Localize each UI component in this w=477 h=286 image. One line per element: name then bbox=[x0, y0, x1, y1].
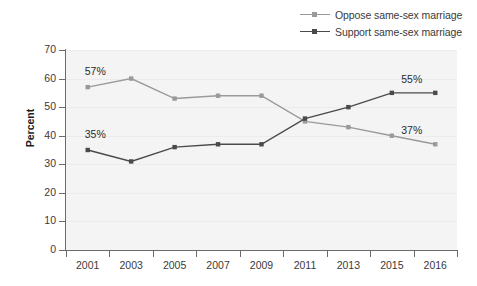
data-point-marker bbox=[433, 142, 437, 146]
data-point-marker bbox=[390, 134, 394, 138]
data-point-marker bbox=[172, 145, 176, 149]
data-label: 57% bbox=[85, 65, 106, 77]
series-line bbox=[88, 93, 436, 162]
data-point-marker bbox=[303, 116, 307, 120]
data-point-marker bbox=[216, 94, 220, 98]
data-point-marker bbox=[129, 159, 133, 163]
data-point-marker bbox=[172, 96, 176, 100]
data-point-marker bbox=[259, 142, 263, 146]
data-point-marker bbox=[433, 91, 437, 95]
data-point-marker bbox=[129, 76, 133, 80]
data-point-marker bbox=[86, 148, 90, 152]
series-line bbox=[88, 79, 436, 145]
data-label: 55% bbox=[401, 73, 422, 85]
data-point-marker bbox=[346, 105, 350, 109]
data-point-marker bbox=[390, 91, 394, 95]
line-chart: Oppose same-sex marriage Support same-se… bbox=[0, 0, 477, 286]
data-label: 37% bbox=[401, 124, 422, 136]
data-point-marker bbox=[86, 85, 90, 89]
data-label: 35% bbox=[85, 128, 106, 140]
series-layer bbox=[0, 0, 477, 286]
data-point-marker bbox=[216, 142, 220, 146]
data-point-marker bbox=[259, 94, 263, 98]
data-point-marker bbox=[346, 125, 350, 129]
